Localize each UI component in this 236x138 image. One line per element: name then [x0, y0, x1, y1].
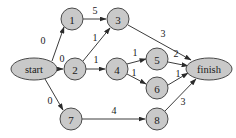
node-label-7: 7 [68, 114, 74, 126]
edge-weight-start-1: 0 [41, 35, 46, 46]
node-label-4: 4 [114, 64, 120, 76]
edge-weight-6-finish: 1 [176, 68, 181, 79]
edge-4-to-5 [127, 59, 146, 64]
edge-weight-4-6: 1 [132, 67, 137, 78]
edge-weight-2-3: 1 [93, 32, 98, 43]
node-label-6: 6 [154, 83, 160, 95]
node-label-finish: finish [197, 64, 222, 75]
weighted-directed-graph-figure: 0005113112143 start13245678finish [0, 0, 236, 138]
edge-weight-5-finish: 2 [174, 48, 179, 59]
node-label-1: 1 [69, 14, 75, 26]
graph-canvas: 0005113112143 start13245678finish [0, 0, 236, 138]
edge-weight-start-7: 0 [48, 95, 53, 106]
edge-weight-1-3: 5 [93, 5, 98, 16]
edge-weight-4-5: 1 [133, 47, 138, 58]
node-label-2: 2 [72, 64, 78, 76]
edge-5-to-finish [168, 62, 188, 66]
edge-weight-start-2: 0 [60, 53, 65, 64]
edge-weight-7-8: 4 [112, 105, 117, 116]
node-label-8: 8 [154, 114, 160, 126]
edge-weight-3-finish: 3 [161, 28, 166, 39]
edge-weight-2-4: 1 [94, 54, 99, 65]
edge-4-to-6 [127, 74, 146, 84]
node-label-5: 5 [154, 54, 160, 66]
nodes-group: start13245678finish [11, 8, 232, 130]
edge-weight-8-finish: 3 [181, 96, 186, 107]
node-label-start: start [25, 64, 43, 75]
node-label-3: 3 [115, 14, 121, 26]
